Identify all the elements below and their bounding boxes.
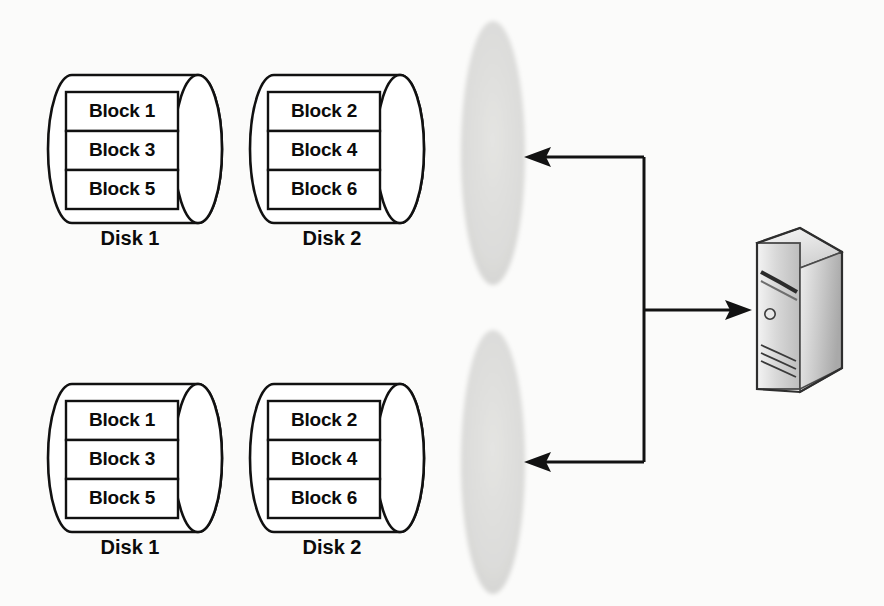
block-label: Block 6: [291, 178, 357, 199]
diagram-canvas: Block 1 Block 3 Block 5 Disk 1 Block 2 B…: [0, 0, 884, 606]
block-label: Block 5: [89, 487, 156, 508]
array-bottom-disk-1: Block 1 Block 3 Block 5 Disk 1: [48, 384, 222, 558]
volume-ellipse: [461, 21, 525, 285]
server-power-button: [765, 309, 775, 319]
raid-diagram: Block 1 Block 3 Block 5 Disk 1 Block 2 B…: [0, 0, 884, 606]
disk-cylinder-cap: [174, 75, 222, 223]
array-top-volume: [461, 21, 525, 285]
disk-label: Disk 1: [101, 227, 160, 249]
block-label: Block 2: [291, 409, 357, 430]
block-label: Block 3: [89, 448, 155, 469]
block-label: Block 2: [291, 100, 357, 121]
disk-cylinder-cap: [376, 384, 424, 532]
server-tower-icon: [757, 228, 842, 392]
server-right-face: [800, 252, 842, 389]
block-label: Block 1: [89, 100, 156, 121]
array-bottom-volume: [461, 330, 525, 594]
disk-cylinder-cap: [174, 384, 222, 532]
array-bottom-disk-2: Block 2 Block 4 Block 6 Disk 2: [250, 384, 424, 558]
array-top-disk-1: Block 1 Block 3 Block 5 Disk 1: [48, 75, 222, 249]
disk-label: Disk 1: [101, 536, 160, 558]
block-label: Block 4: [291, 139, 358, 160]
volume-ellipse: [461, 330, 525, 594]
block-label: Block 4: [291, 448, 358, 469]
block-label: Block 6: [291, 487, 357, 508]
block-label: Block 1: [89, 409, 156, 430]
disk-label: Disk 2: [303, 227, 362, 249]
array-top-disk-2: Block 2 Block 4 Block 6 Disk 2: [250, 75, 424, 249]
block-label: Block 5: [89, 178, 156, 199]
disk-label: Disk 2: [303, 536, 362, 558]
disk-cylinder-cap: [376, 75, 424, 223]
block-label: Block 3: [89, 139, 155, 160]
